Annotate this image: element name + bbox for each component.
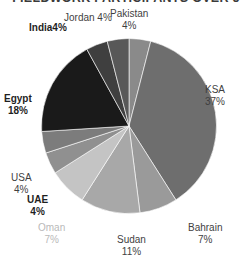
pie-label-usa: USA 4% [11,172,32,195]
pie-label-usa-name: USA [11,172,32,184]
pie-label-bahrain-name: Bahrain [188,222,222,234]
pie-label-uae-name: UAE [27,194,48,206]
pie-chart-svg [41,38,217,214]
pie-label-india-name: India [29,22,52,33]
pie-slice-group [41,39,216,214]
pie-label-ksa-percent: 37% [205,96,225,108]
pie-label-oman-name: Oman [38,222,65,234]
pie-label-jordan-name: Jordan [64,12,95,23]
pie-label-egypt-name: Egypt [4,93,32,105]
pie-label-uae: UAE 4% [27,194,48,217]
chart-title: FIELDWORK PARTICIPANTS OVER 5 [0,0,252,5]
pie-label-ksa-name: KSA [205,84,225,96]
pie-label-pakistan-name: Pakistan [110,8,148,20]
pie-label-ksa: KSA 37% [205,84,225,107]
pie-label-pakistan: Pakistan 4% [110,8,148,31]
pie-chart [41,38,217,214]
pie-label-pakistan-percent: 4% [110,20,148,32]
pie-label-bahrain-percent: 7% [188,234,222,246]
pie-label-bahrain: Bahrain 7% [188,222,222,245]
pie-label-india: India4% [29,22,67,34]
pie-label-egypt-percent: 18% [4,105,32,117]
pie-label-uae-percent: 4% [27,206,48,218]
pie-label-egypt: Egypt 18% [4,93,32,116]
pie-label-oman: Oman 7% [38,222,65,245]
pie-label-sudan-name: Sudan [117,234,146,246]
pie-label-india-percent: 4% [52,22,66,33]
pie-label-sudan: Sudan 11% [117,234,146,257]
pie-label-oman-percent: 7% [38,234,65,246]
pie-label-jordan: Jordan 4% [64,12,112,24]
pie-label-sudan-percent: 11% [117,246,146,258]
